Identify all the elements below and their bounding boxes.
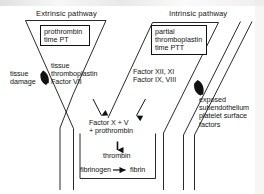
exposed-surface-marker-icon bbox=[194, 80, 204, 96]
tissue-damage-marker-icon bbox=[40, 71, 48, 86]
scan-artifact-right bbox=[255, 0, 264, 194]
converging-arrows bbox=[93, 99, 146, 116]
intrinsic-factors-label: Factor XII, XI Factor IX, VIII bbox=[133, 68, 176, 84]
partial-thromboplastin-time-box: partial thromboplastin time PTT bbox=[151, 25, 207, 55]
thrombin-label: thrombin bbox=[103, 152, 131, 160]
extrinsic-pathway-heading: Extrinsic pathway bbox=[36, 10, 97, 18]
fibrinogen-label: fibrinogen bbox=[80, 166, 111, 174]
fibrin-label: fibrin bbox=[130, 166, 145, 174]
scan-artifact-top bbox=[0, 0, 264, 6]
prothrombin-time-box: prothrombin time PT bbox=[40, 25, 90, 46]
factor-x-v-prothrombin-label: Factor X + V + prothrombin bbox=[89, 119, 133, 135]
intrinsic-pathway-heading: Intrinsic pathway bbox=[169, 10, 227, 18]
tissue-thromboplastin-label: tissue thromboplastin Factor VII bbox=[51, 62, 97, 87]
diagram-canvas: Extrinsic pathway Intrinsic pathway prot… bbox=[0, 0, 264, 194]
tissue-damage-label: tissue damage bbox=[10, 70, 36, 86]
exposed-surface-label: exposed subendothelium platelet surface … bbox=[199, 96, 249, 129]
